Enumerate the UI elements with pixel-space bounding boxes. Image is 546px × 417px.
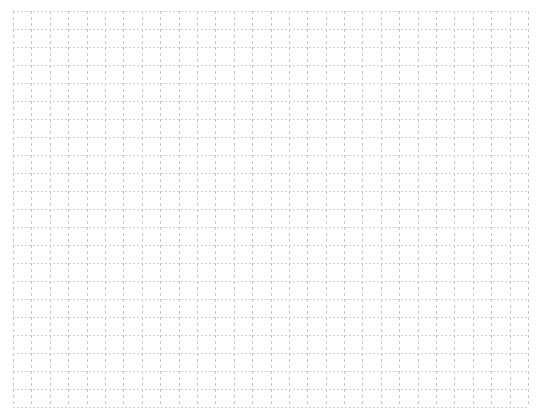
grid-line-horizontal [13,101,528,102]
grid-line-horizontal [13,47,528,48]
grid-line-horizontal [13,29,528,30]
grid-line-horizontal [13,389,528,390]
grid-line-horizontal [13,353,528,354]
grid-line-horizontal [13,407,528,408]
grid-line-horizontal [13,371,528,372]
grid-line-horizontal [13,299,528,300]
grid-line-horizontal [13,155,528,156]
grid-line-horizontal [13,83,528,84]
grid-line-horizontal [13,119,528,120]
grid-line-horizontal [13,263,528,264]
grid-line-horizontal [13,11,528,12]
grid-line-horizontal [13,191,528,192]
grid-line-horizontal [13,227,528,228]
grid-line-horizontal [13,245,528,246]
grid-line-horizontal [13,317,528,318]
grid-line-horizontal [13,335,528,336]
grid-line-vertical [528,11,529,407]
grid-line-horizontal [13,137,528,138]
grid-line-horizontal [13,209,528,210]
grid-canvas [0,0,546,417]
grid-line-layer [13,11,528,407]
grid-line-horizontal [13,281,528,282]
grid-line-horizontal [13,173,528,174]
grid-line-horizontal [13,65,528,66]
